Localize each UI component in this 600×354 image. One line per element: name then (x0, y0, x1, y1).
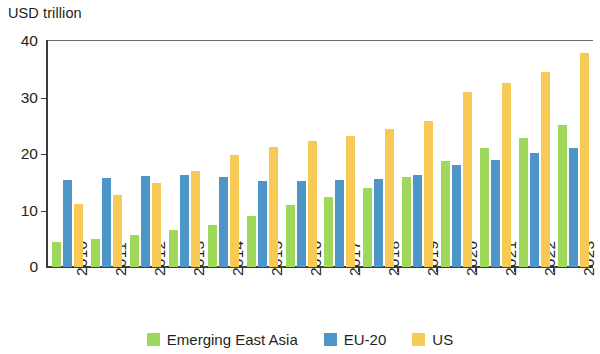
bar (530, 153, 539, 267)
bar (335, 180, 344, 267)
x-axis-tick (86, 267, 87, 272)
x-axis-tick (475, 267, 476, 272)
legend-label: EU-20 (344, 331, 387, 348)
x-axis-tick (436, 267, 437, 272)
legend-item[interactable]: Emerging East Asia (147, 331, 298, 348)
bar-group (52, 41, 83, 267)
bar (247, 216, 256, 267)
bar (91, 239, 100, 267)
legend-swatch-icon (324, 333, 337, 346)
x-axis-tick (164, 267, 165, 272)
bar (580, 53, 589, 267)
bar (141, 176, 150, 267)
bar (374, 179, 383, 267)
bar (363, 188, 372, 267)
bar-group (91, 41, 122, 267)
y-axis-tick-label: 0 (0, 258, 38, 276)
bar (219, 177, 228, 267)
y-axis-tick-label: 40 (0, 32, 38, 50)
bar (208, 225, 217, 267)
x-axis-tick (203, 267, 204, 272)
bar (324, 197, 333, 267)
bar (519, 138, 528, 267)
bar (269, 147, 278, 267)
bar (491, 160, 500, 267)
bar (230, 155, 239, 267)
bar (441, 161, 450, 267)
legend-item[interactable]: US (412, 331, 453, 348)
x-axis-tick (281, 267, 282, 272)
bar (424, 121, 433, 267)
bar (74, 204, 83, 267)
y-axis-tick-label: 10 (0, 202, 38, 220)
bar-group (169, 41, 200, 267)
bar (463, 92, 472, 267)
bar-group (363, 41, 394, 267)
bar (169, 230, 178, 267)
legend-item[interactable]: EU-20 (324, 331, 387, 348)
x-axis-tick (514, 267, 515, 272)
bar (258, 181, 267, 267)
bar (113, 195, 122, 267)
bar (346, 136, 355, 267)
y-axis-tick-label: 30 (0, 89, 38, 107)
plot-area (47, 41, 592, 267)
bar-group (441, 41, 472, 267)
x-axis-tick (320, 267, 321, 272)
bar (502, 83, 511, 267)
bar (286, 205, 295, 267)
legend-label: US (432, 331, 453, 348)
x-axis-tick (358, 267, 359, 272)
x-axis-tick (397, 267, 398, 272)
y-axis-tick-label: 20 (0, 145, 38, 163)
bar (452, 165, 461, 267)
bar-group (480, 41, 511, 267)
bar-group (519, 41, 550, 267)
legend-label: Emerging East Asia (167, 331, 298, 348)
bar (102, 178, 111, 267)
bar (480, 148, 489, 267)
bar-group (130, 41, 161, 267)
bar (385, 129, 394, 267)
bar-chart: USD trillion 010203040 20102011201220132… (0, 0, 600, 354)
x-axis-tick (553, 267, 554, 272)
bar-group (286, 41, 317, 267)
bar (402, 177, 411, 267)
bar-group (324, 41, 355, 267)
bar (130, 235, 139, 267)
bar (558, 125, 567, 267)
bar-group (208, 41, 239, 267)
bar-group (558, 41, 589, 267)
legend-swatch-icon (412, 333, 425, 346)
x-axis-tick (125, 267, 126, 272)
legend-swatch-icon (147, 333, 160, 346)
x-axis-tick (242, 267, 243, 272)
bar (297, 181, 306, 267)
bar (52, 242, 61, 267)
bar (191, 171, 200, 267)
bar (152, 183, 161, 267)
bar (541, 72, 550, 267)
bar-group (247, 41, 278, 267)
bar (63, 180, 72, 267)
chart-legend: Emerging East AsiaEU-20US (0, 331, 600, 348)
bar-group (402, 41, 433, 267)
y-axis-unit-title: USD trillion (8, 5, 82, 21)
bar (180, 175, 189, 267)
bar (569, 148, 578, 267)
bar (308, 141, 317, 267)
bar (413, 175, 422, 267)
